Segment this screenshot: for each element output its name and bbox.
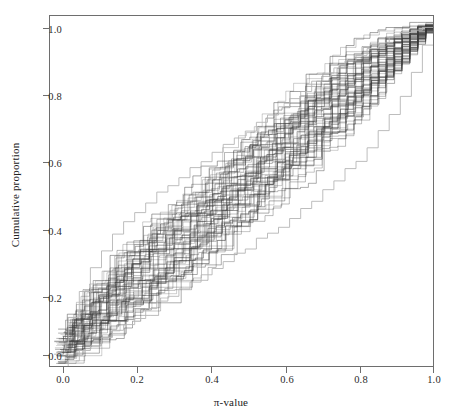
xtick-label-4: 0.8 bbox=[354, 374, 368, 385]
ytick-label-2: 0.4 bbox=[48, 226, 62, 237]
y-axis-title: Cumulative proportion bbox=[9, 95, 21, 295]
ytick-label-1: 0.2 bbox=[48, 293, 62, 304]
xtick-label-5: 1.0 bbox=[427, 374, 441, 385]
plot-canvas bbox=[0, 0, 462, 418]
xtick-label-0: 0.0 bbox=[56, 374, 70, 385]
ytick-label-0: 0.0 bbox=[48, 351, 62, 362]
xtick-label-3: 0.6 bbox=[280, 374, 294, 385]
ytick-label-5: 1.0 bbox=[48, 24, 62, 35]
ecdf-figure: 0.0 0.2 0.4 0.6 0.8 1.0 0.0 0.2 0.4 0.6 … bbox=[0, 0, 462, 418]
xtick-label-1: 0.2 bbox=[130, 374, 144, 385]
xtick-label-2: 0.4 bbox=[205, 374, 219, 385]
ytick-label-4: 0.8 bbox=[48, 91, 62, 102]
ytick-label-3: 0.6 bbox=[48, 158, 62, 169]
x-axis-title: π-value bbox=[0, 396, 462, 408]
